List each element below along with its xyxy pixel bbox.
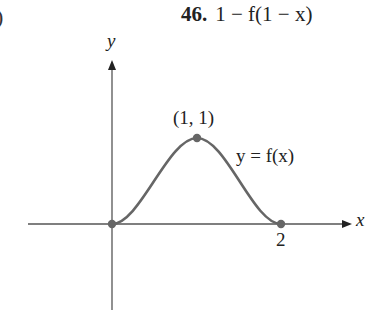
end-point [277, 220, 285, 228]
x-tick-2: 2 [276, 229, 286, 251]
peak-label: (1, 1) [173, 107, 214, 129]
peak-point [193, 134, 201, 142]
curve-label: y = f(x) [236, 145, 294, 167]
y-axis-arrow-icon [108, 60, 116, 70]
x-axis-arrow-icon [342, 220, 352, 228]
x-axis-label: x [356, 209, 364, 231]
y-axis-label: y [107, 30, 115, 52]
graph [0, 0, 376, 322]
origin-point [108, 220, 116, 228]
